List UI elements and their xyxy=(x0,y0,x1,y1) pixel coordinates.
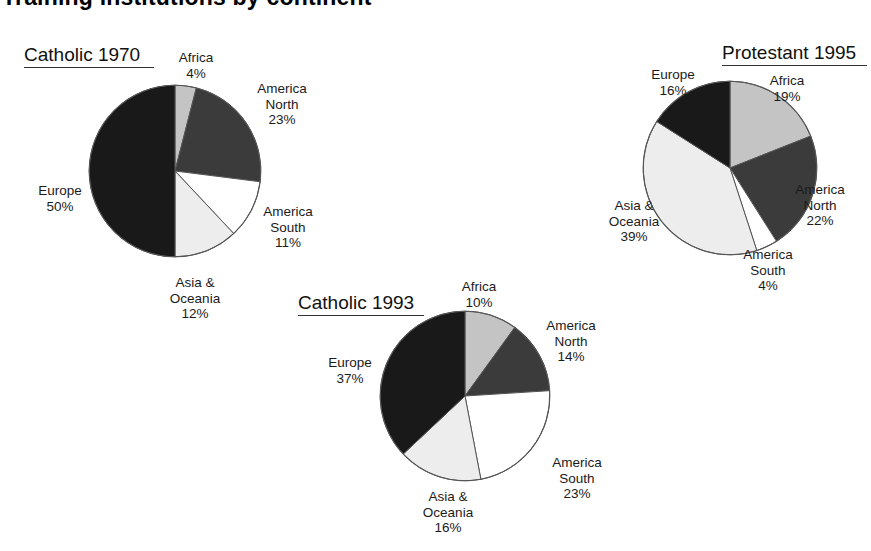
label-africa-catholic-1993: Africa 10% xyxy=(462,279,497,310)
pie-slices xyxy=(643,81,817,255)
label-value: 11% xyxy=(263,235,313,251)
label-value: 4% xyxy=(179,66,214,82)
pie-svg-catholic-1970 xyxy=(88,84,262,258)
page-title: Training institutions by continent xyxy=(2,0,372,11)
label-name: Europe xyxy=(328,355,372,371)
label-name2: North xyxy=(546,334,596,350)
label-name: Europe xyxy=(651,67,695,83)
label-africa-catholic-1970: Africa 4% xyxy=(179,50,214,81)
label-name: Asia & xyxy=(609,198,659,214)
label-name: America xyxy=(257,81,307,97)
label-value: 14% xyxy=(546,349,596,365)
label-value: 10% xyxy=(462,295,497,311)
chart-title-catholic-1970: Catholic 1970 xyxy=(24,44,154,68)
label-value: 16% xyxy=(651,83,695,99)
label-name: America xyxy=(795,182,845,198)
label-america-north-protestant-1995: America North 22% xyxy=(795,182,845,229)
label-america-south-protestant-1995: America South 4% xyxy=(743,247,793,294)
label-name: Africa xyxy=(770,73,805,89)
label-asia-oceania-protestant-1995: Asia & Oceania 39% xyxy=(609,198,659,245)
label-america-north-catholic-1970: America North 23% xyxy=(257,81,307,128)
label-name2: North xyxy=(795,198,845,214)
label-name: America xyxy=(743,247,793,263)
label-name2: Oceania xyxy=(423,505,473,521)
label-value: 19% xyxy=(770,89,805,105)
pie-svg-protestant-1995 xyxy=(642,80,818,256)
label-value: 23% xyxy=(552,486,602,502)
label-name2: Oceania xyxy=(170,291,220,307)
label-asia-oceania-catholic-1993: Asia & Oceania 16% xyxy=(423,489,473,536)
label-name2: Oceania xyxy=(609,214,659,230)
label-name2: South xyxy=(743,263,793,279)
label-name: Asia & xyxy=(170,275,220,291)
label-name2: South xyxy=(552,471,602,487)
label-name: Asia & xyxy=(423,489,473,505)
label-value: 50% xyxy=(38,199,82,215)
label-name: Africa xyxy=(179,50,214,66)
label-value: 16% xyxy=(423,520,473,536)
label-name: Europe xyxy=(38,183,82,199)
label-europe-protestant-1995: Europe 16% xyxy=(651,67,695,98)
label-name: America xyxy=(263,204,313,220)
label-value: 22% xyxy=(795,213,845,229)
pie-slices xyxy=(380,311,550,481)
label-value: 37% xyxy=(328,371,372,387)
label-america-north-catholic-1993: America North 14% xyxy=(546,318,596,365)
label-africa-protestant-1995: Africa 19% xyxy=(770,73,805,104)
pie-slices xyxy=(89,85,261,257)
label-europe-catholic-1993: Europe 37% xyxy=(328,355,372,386)
label-america-south-catholic-1970: America South 11% xyxy=(263,204,313,251)
label-value: 39% xyxy=(609,229,659,245)
label-value: 12% xyxy=(170,306,220,322)
label-name2: North xyxy=(257,97,307,113)
label-name: Africa xyxy=(462,279,497,295)
label-europe-catholic-1970: Europe 50% xyxy=(38,183,82,214)
label-america-south-catholic-1993: America South 23% xyxy=(552,455,602,502)
label-name: America xyxy=(546,318,596,334)
chart-title-protestant-1995: Protestant 1995 xyxy=(722,42,867,66)
label-value: 4% xyxy=(743,278,793,294)
pie-svg-catholic-1993 xyxy=(379,310,551,482)
label-value: 23% xyxy=(257,112,307,128)
label-asia-oceania-catholic-1970: Asia & Oceania 12% xyxy=(170,275,220,322)
label-name: America xyxy=(552,455,602,471)
figure-canvas: Training institutions by continent Catho… xyxy=(0,0,871,551)
pie-slice-europe xyxy=(89,85,175,257)
label-name2: South xyxy=(263,220,313,236)
